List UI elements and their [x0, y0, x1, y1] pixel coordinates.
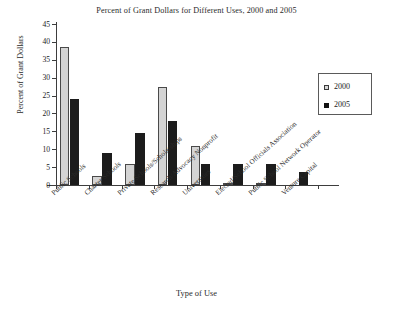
x-tick-end [318, 185, 319, 189]
legend-item-2005: 2005 [324, 101, 350, 109]
chart-legend: 2000 2005 [318, 73, 372, 115]
chart-title: Percent of Grant Dollars for Different U… [0, 6, 393, 15]
legend-item-2000: 2000 [324, 83, 350, 91]
y-tick-label-25: 25 [26, 96, 50, 97]
legend-label-2005: 2005 [334, 101, 350, 109]
y-tick-label-45: 45 [26, 24, 50, 25]
y-axis-title: Percent of Grant Dollars [16, 15, 25, 135]
y-tick-label-10: 10 [26, 149, 50, 150]
y-tick-label-35: 35 [26, 60, 50, 61]
y-tick-label-15: 15 [26, 131, 50, 132]
y-tick-label-5: 5 [26, 167, 50, 168]
legend-swatch-2005-icon [324, 103, 329, 108]
legend-label-2000: 2000 [334, 83, 350, 91]
bar-2000-0 [60, 47, 70, 185]
bar-2000-3 [158, 87, 168, 185]
y-tick-label-0: 0 [26, 185, 50, 186]
y-tick-label-30: 30 [26, 78, 50, 79]
chart-figure: Percent of Grant Dollars for Different U… [0, 0, 393, 315]
y-tick-label-40: 40 [26, 42, 50, 43]
legend-swatch-2000-icon [324, 85, 329, 90]
y-tick-label-20: 20 [26, 113, 50, 114]
x-axis-title: Type of Use [0, 289, 393, 298]
